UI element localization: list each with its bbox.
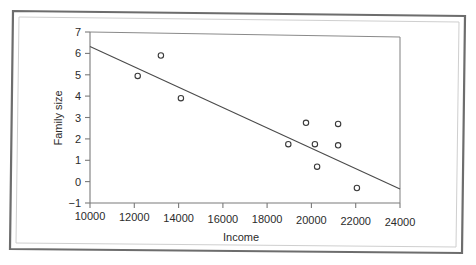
y-axis-tick-labels: 7 6 5 4 3 2 1 0 −1 bbox=[68, 26, 81, 209]
y-tick-label-5: 5 bbox=[75, 69, 81, 81]
x-tick-label-18000: 18000 bbox=[252, 213, 283, 225]
x-axis-tick-labels: 10000 12000 14000 16000 18000 20000 2200… bbox=[75, 210, 416, 228]
data-point bbox=[135, 73, 140, 78]
y-tick-label-3: 3 bbox=[75, 112, 81, 124]
data-point bbox=[178, 96, 183, 101]
data-point bbox=[314, 164, 319, 169]
data-point bbox=[335, 121, 340, 126]
y-tick-label-1: 1 bbox=[75, 154, 81, 166]
x-tick-label-10000: 10000 bbox=[75, 210, 106, 222]
plot-frame-top bbox=[90, 32, 400, 37]
x-axis-title: Income bbox=[223, 231, 259, 243]
data-point bbox=[312, 142, 317, 147]
y-tick-label-6: 6 bbox=[75, 47, 81, 59]
data-point bbox=[335, 143, 340, 148]
data-point bbox=[158, 53, 163, 58]
x-tick-label-20000: 20000 bbox=[296, 214, 327, 226]
y-axis-ticks bbox=[85, 32, 90, 203]
y-tick-label-2: 2 bbox=[75, 133, 81, 145]
x-axis-ticks bbox=[90, 203, 400, 208]
x-tick-label-22000: 22000 bbox=[340, 215, 371, 227]
x-tick-label-14000: 14000 bbox=[163, 212, 194, 224]
data-point bbox=[354, 185, 359, 190]
x-tick-label-12000: 12000 bbox=[119, 211, 150, 223]
chart-canvas: 7 6 5 4 3 2 1 0 −1 10000 12000 14000 160 bbox=[0, 0, 476, 265]
y-axis-title: Family size bbox=[52, 90, 64, 145]
scatter-plot-figure: 7 6 5 4 3 2 1 0 −1 10000 12000 14000 160 bbox=[0, 0, 476, 265]
y-tick-label-4: 4 bbox=[75, 90, 81, 102]
x-tick-label-16000: 16000 bbox=[208, 213, 239, 225]
y-tick-label-7: 7 bbox=[75, 26, 81, 38]
regression-line bbox=[90, 47, 400, 189]
data-point bbox=[286, 142, 291, 147]
y-tick-label-0: 0 bbox=[75, 176, 81, 188]
y-tick-label-neg1: −1 bbox=[68, 197, 81, 209]
data-point-series bbox=[135, 53, 360, 191]
data-point bbox=[303, 120, 308, 125]
x-tick-label-24000: 24000 bbox=[385, 216, 416, 228]
